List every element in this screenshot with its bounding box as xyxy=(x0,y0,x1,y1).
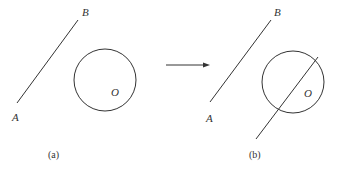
label-o-a: O xyxy=(111,86,119,98)
label-a-b: A xyxy=(206,112,213,124)
caption-a: (a) xyxy=(48,149,59,160)
segment-ab-b xyxy=(210,20,271,102)
diagram-canvas xyxy=(0,0,338,172)
segment-ab-a xyxy=(17,20,78,103)
label-b-a: B xyxy=(82,6,89,18)
figure-b xyxy=(210,20,324,139)
transform-arrow xyxy=(166,63,210,68)
label-o-b: O xyxy=(304,87,312,99)
arrowhead-icon xyxy=(203,63,210,68)
circle-o-a xyxy=(74,49,136,111)
label-b-b: B xyxy=(274,6,281,18)
circle-o-b xyxy=(262,51,324,113)
caption-b: (b) xyxy=(249,149,261,160)
label-a-a: A xyxy=(12,111,19,123)
